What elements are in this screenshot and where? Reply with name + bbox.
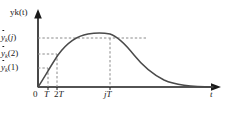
x-tick-label-2T: 2T: [54, 90, 64, 99]
x-tick-label-jT: jT: [104, 90, 112, 99]
origin-label: 0: [33, 90, 38, 99]
velocity-response-figure: yk(t) yk(j) yk(2) yk(1) 0 T 2T jT t: [0, 0, 231, 117]
y-tick-label-y1: yk(1): [1, 63, 18, 73]
x-tick-label-T: T: [44, 90, 49, 99]
y-tick-label-y2: yk(2): [1, 49, 18, 59]
y-tick-label-yj: yk(j): [1, 33, 16, 43]
x-axis-title: t: [210, 90, 213, 99]
plot-canvas: [0, 0, 231, 117]
velocity-curve: [38, 33, 213, 87]
y-axis-title: yk(t): [10, 8, 28, 17]
y-axis: [34, 9, 42, 87]
y-axis-arrowhead: [34, 9, 42, 19]
